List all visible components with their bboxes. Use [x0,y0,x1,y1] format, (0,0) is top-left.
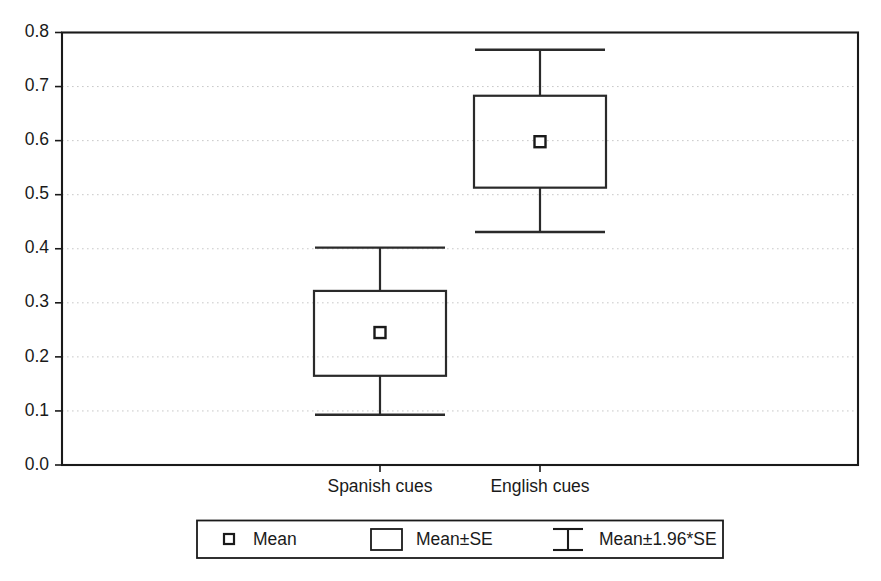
x-category-label-1: English cues [490,476,589,496]
y-tick-label: 0.3 [25,291,49,311]
y-tick-label: 0.4 [25,237,50,257]
y-tick-label: 0.8 [25,21,49,41]
y-tick-label: 0.1 [25,400,49,420]
y-tick-label: 0.0 [25,454,50,474]
y-tick-label: 0.6 [25,129,49,149]
y-tick-label: 0.5 [25,183,49,203]
y-tick-label: 0.2 [25,346,49,366]
mean-marker [535,136,546,147]
y-tick-label: 0.7 [25,75,49,95]
legend-mean-marker-icon [224,534,234,544]
legend-label-mean: Mean [253,529,297,549]
chart-canvas: 0.00.10.20.30.40.50.60.70.8 Spanish cues… [0,0,881,581]
mean-marker [375,327,386,338]
box-plot-figure: 0.00.10.20.30.40.50.60.70.8 Spanish cues… [0,0,881,581]
legend-label-mean-ci: Mean±1.96*SE [599,529,717,549]
legend-label-mean-se: Mean±SE [416,529,493,549]
x-category-label-0: Spanish cues [327,476,432,496]
